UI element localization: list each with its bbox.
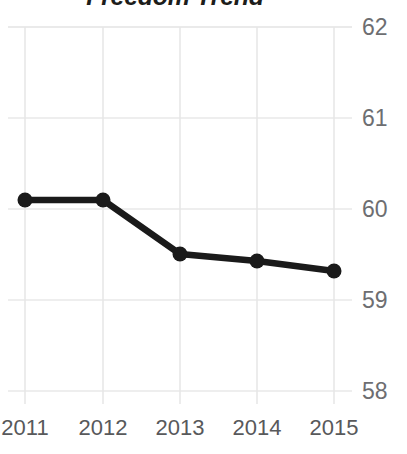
y-axis-tick-60: 60 — [362, 198, 407, 221]
x-axis-tick-2015: 2015 — [294, 417, 374, 439]
data-point-2014 — [250, 254, 265, 269]
y-axis-tick-62: 62 — [362, 16, 407, 39]
x-axis-tick-2013: 2013 — [140, 417, 220, 439]
vertical-gridlines — [25, 27, 334, 404]
y-axis-tick-58: 58 — [362, 380, 407, 403]
data-point-2015 — [327, 264, 342, 279]
data-point-2012 — [96, 193, 111, 208]
data-point-2013 — [173, 247, 188, 262]
x-axis-tick-2012: 2012 — [63, 417, 143, 439]
plot-area — [0, 0, 360, 410]
plot-svg — [0, 0, 360, 410]
data-point-2011 — [18, 193, 33, 208]
line-chart-figure: Freedom Trend — [0, 0, 407, 454]
x-axis-tick-2011: 2011 — [0, 417, 65, 439]
y-axis-tick-59: 59 — [362, 289, 407, 312]
y-axis-tick-61: 61 — [362, 107, 407, 130]
x-axis-tick-2014: 2014 — [217, 417, 297, 439]
